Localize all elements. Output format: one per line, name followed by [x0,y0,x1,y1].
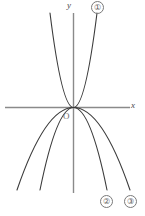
curve-label-3: ③ [124,195,137,208]
curve-label-2: ② [100,195,113,208]
x-axis-label: x [131,101,135,110]
origin-label: O [63,112,70,121]
curve-label-1: ① [91,1,104,14]
y-axis-label: y [67,1,71,10]
plot-canvas [0,0,145,216]
parabola-figure: y x O ① ② ③ [0,0,145,216]
